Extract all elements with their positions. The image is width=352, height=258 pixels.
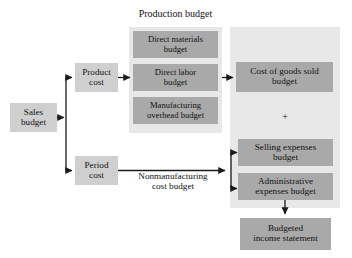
node-budgeted-income-statement[interactable]: Budgeted income statement [240, 218, 331, 250]
node-administrative-expenses-budget[interactable]: Administrative expenses budget [238, 173, 333, 200]
node-period-cost[interactable]: Period cost [75, 156, 118, 185]
node-selling-expenses-budget[interactable]: Selling expenses budget [238, 139, 333, 166]
plus-sign: + [262, 112, 308, 122]
master-budget-flowchart: Production budget Nonmanufacturing cost … [0, 0, 352, 258]
node-direct-labor-budget[interactable]: Direct labor budget [133, 64, 218, 91]
node-manufacturing-overhead-budget[interactable]: Manufacturing overhead budget [133, 97, 218, 124]
nonmanufacturing-cost-budget-caption: Nonmanufacturing cost budget [118, 172, 228, 192]
node-product-cost[interactable]: Product cost [75, 63, 118, 92]
production-budget-caption: Production budget [129, 9, 222, 20]
node-cost-of-goods-sold-budget[interactable]: Cost of goods sold budget [236, 62, 333, 92]
node-direct-materials-budget[interactable]: Direct materials budget [133, 31, 218, 58]
node-sales-budget[interactable]: Sales budget [10, 103, 57, 132]
